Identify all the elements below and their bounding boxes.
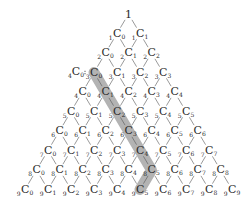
combination-node: 9C8 — [201, 183, 218, 196]
combination-node: 7C1 — [63, 144, 80, 157]
combination-node: 1C0 — [109, 27, 126, 40]
combination-node: 5C1 — [86, 105, 103, 118]
combination-node: 8C8 — [212, 164, 229, 177]
combination-node: 1C1 — [132, 27, 149, 40]
combination-node: 8C2 — [74, 164, 91, 177]
combination-node: 8C5 — [143, 164, 160, 177]
combination-node: 4C1 — [97, 86, 114, 99]
combination-node: 7C3 — [109, 144, 126, 157]
combination-node: 8C0 — [28, 164, 45, 177]
combination-node: 6C3 — [120, 125, 137, 138]
combination-node: 3C2 — [132, 66, 149, 79]
combination-node: 2C1 — [120, 47, 137, 60]
combination-node: 7C0 — [40, 144, 57, 157]
side-label-symbol: C — [72, 65, 80, 78]
combination-node: 6C0 — [51, 125, 68, 138]
combination-node: 9C6 — [155, 183, 172, 196]
combination-node: 3C0 — [86, 66, 103, 79]
combination-node: 6C4 — [143, 125, 160, 138]
combination-node: 6C1 — [74, 125, 91, 138]
combination-node: 4C4 — [166, 86, 183, 99]
combination-node: 9C1 — [40, 183, 57, 196]
combination-node: 5C2 — [109, 105, 126, 118]
combination-node: 2C2 — [143, 47, 160, 60]
combination-node: 5C0 — [63, 105, 80, 118]
combination-node: 9C7 — [178, 183, 195, 196]
combination-node: 7C7 — [201, 144, 218, 157]
combination-node: 7C6 — [178, 144, 195, 157]
combination-node: 5C5 — [178, 105, 195, 118]
combination-node: 2C0 — [97, 47, 114, 60]
apex-label: 1 — [125, 8, 132, 21]
combination-node: 7C2 — [86, 144, 103, 157]
combination-node: 9C4 — [109, 183, 126, 196]
combination-node: 9C9 — [224, 183, 241, 196]
combination-node: 8C4 — [120, 164, 137, 177]
combination-node: 4C2 — [120, 86, 137, 99]
combination-node: 8C6 — [166, 164, 183, 177]
side-label-4c0-equals: 4C0 — [68, 65, 84, 79]
combination-node: 6C5 — [166, 125, 183, 138]
combination-node: 4C0 — [74, 86, 91, 99]
combination-node: 4C3 — [143, 86, 160, 99]
combination-node: 3C3 — [155, 66, 172, 79]
combination-node: 9C0 — [17, 183, 34, 196]
combination-node: 6C2 — [97, 125, 114, 138]
combination-node: 5C4 — [155, 105, 172, 118]
side-label-k: 0 — [80, 71, 84, 78]
combination-node: 9C2 — [63, 183, 80, 196]
combination-node: 3C1 — [109, 66, 126, 79]
combination-node: 5C3 — [132, 105, 149, 118]
combination-node: 6C6 — [189, 125, 206, 138]
pascal-triangle-diagram: 1 1C01C12C02C12C23C03C13C23C34C04C14C24C… — [0, 0, 250, 209]
combination-node: 8C1 — [51, 164, 68, 177]
combination-node: 9C5 — [132, 183, 149, 196]
combination-node: 7C5 — [155, 144, 172, 157]
combination-node: 9C3 — [86, 183, 103, 196]
combination-node: 7C4 — [132, 144, 149, 157]
combination-node: 8C7 — [189, 164, 206, 177]
combination-node: 8C3 — [97, 164, 114, 177]
